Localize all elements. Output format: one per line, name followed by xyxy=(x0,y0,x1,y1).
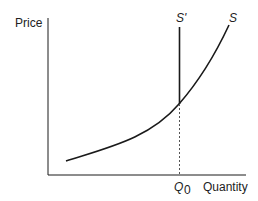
diagram-canvas: Price Quantity S' S Q 0 xyxy=(0,0,258,201)
y-axis-label: Price xyxy=(15,16,43,30)
q0-subscript: 0 xyxy=(184,183,191,197)
q0-label: Q xyxy=(174,180,183,194)
supply-diagram: Price Quantity S' S Q 0 xyxy=(0,0,258,201)
s-label: S xyxy=(229,11,237,25)
s-prime-label: S' xyxy=(176,11,187,25)
supply-curve-s xyxy=(66,25,229,161)
x-axis-label: Quantity xyxy=(203,180,248,194)
